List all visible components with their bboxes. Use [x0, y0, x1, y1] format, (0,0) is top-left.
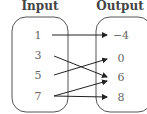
- input-value: 1: [35, 29, 42, 42]
- input-value: 7: [35, 90, 42, 103]
- input-title: Input: [22, 0, 59, 13]
- input-value: 5: [35, 69, 42, 82]
- output-value: 0: [118, 52, 125, 65]
- output-title: Output: [96, 0, 144, 13]
- output-value: −4: [113, 29, 129, 42]
- mapping-diagram: Input Output 1 3 5 7 −4 0 6 8: [0, 0, 147, 114]
- output-value: 6: [118, 71, 125, 84]
- arrow-5-to-0: [54, 59, 107, 75]
- arrow-7-to-6: [54, 81, 107, 96]
- output-value: 8: [118, 91, 125, 104]
- input-value: 3: [35, 49, 42, 62]
- arrow-7-to-8: [54, 96, 107, 97]
